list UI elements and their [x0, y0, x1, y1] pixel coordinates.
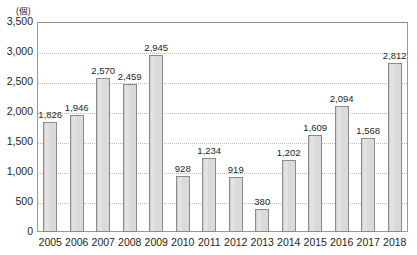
bar-value-label: 1,202 [268, 148, 310, 158]
bar-series: 1,8261,9462,5702,4592,9459281,2349193801… [37, 22, 408, 232]
x-axis-tick-label: 2018 [375, 236, 415, 249]
y-axis-tick-label: 3,500 [0, 16, 33, 27]
bar-value-label: 1,568 [347, 126, 389, 136]
bar-value-label: 1,946 [56, 103, 98, 113]
bar-value-label: 2,945 [135, 43, 177, 53]
bar-value-label: 2,812 [374, 51, 416, 61]
bar-value-label: 2,459 [109, 72, 151, 82]
x-axis-tick-labels: 2005200620072008200920102011201220132014… [37, 236, 408, 252]
bar-value-label: 2,094 [321, 94, 363, 104]
y-axis-tick-label: 500 [0, 196, 33, 207]
bar [43, 122, 57, 232]
y-axis-tick-labels: 05001,0001,5002,0002,5003,0003,500 [0, 22, 33, 232]
y-axis-tick-label: 2,000 [0, 106, 33, 117]
y-axis-tick-label: 0 [0, 226, 33, 237]
y-axis-tick-label: 3,000 [0, 46, 33, 57]
bar [149, 55, 163, 232]
bar-value-label: 919 [215, 165, 257, 175]
bar [388, 63, 402, 232]
bar [176, 176, 190, 232]
bar [308, 135, 322, 232]
cropped-title-remnant [126, 0, 296, 4]
bar-value-label: 1,234 [188, 146, 230, 156]
y-axis-tick-label: 1,000 [0, 166, 33, 177]
bar [96, 78, 110, 232]
bar [255, 209, 269, 232]
y-axis-tick-label: 1,500 [0, 136, 33, 147]
bar [282, 160, 296, 232]
bar-value-label: 928 [162, 164, 204, 174]
bar-value-label: 1,609 [294, 123, 336, 133]
bar [70, 115, 84, 232]
bar [361, 138, 375, 232]
y-axis-tick-label: 2,500 [0, 76, 33, 87]
bar-value-label: 380 [241, 197, 283, 207]
bar-chart: (個) 05001,0001,5002,0002,5003,0003,500 1… [0, 0, 417, 255]
bar [123, 84, 137, 232]
